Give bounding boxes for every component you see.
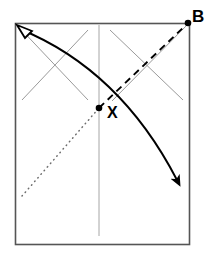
diagram-svg: B X — [0, 0, 205, 256]
origami-diagram-canvas: B X — [0, 0, 205, 256]
paper-sheet-outline — [16, 24, 190, 245]
point-x-dot — [96, 105, 103, 112]
label-corner-b: B — [192, 7, 204, 26]
point-b-dot — [185, 20, 192, 27]
label-point-x: X — [107, 104, 118, 121]
